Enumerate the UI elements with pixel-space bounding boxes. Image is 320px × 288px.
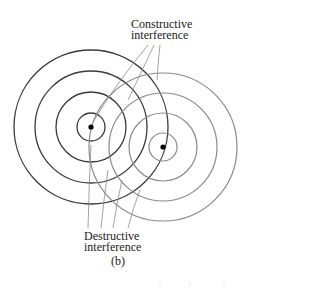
- bottom-artifacts: [160, 283, 224, 287]
- panel-label: (b): [111, 256, 125, 267]
- left-source-dot: [88, 124, 93, 129]
- destructive-leader-3: [113, 180, 122, 228]
- constructive-leader-3: [157, 45, 160, 80]
- constructive-interference-label: Constructive interference: [131, 19, 192, 41]
- right-source-dot: [160, 144, 165, 149]
- destructive-label-line2: interference: [84, 242, 141, 253]
- constructive-label-line2: interference: [131, 30, 192, 41]
- destructive-interference-label: Destructive interference: [84, 231, 141, 253]
- destructive-leader-2: [101, 170, 108, 228]
- destructive-leader-lines: [88, 145, 140, 228]
- destructive-leader-4: [128, 190, 140, 228]
